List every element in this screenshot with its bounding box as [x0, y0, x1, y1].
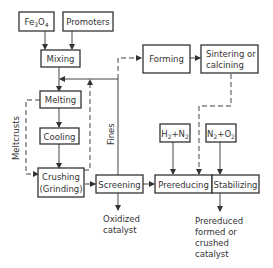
node-sintering: Sintering or calcining: [201, 45, 258, 73]
node-fe3o4: Fe3O4: [19, 12, 54, 31]
node-prereducing: Prereducing: [155, 175, 212, 193]
node-h2n2: H2+N2: [160, 124, 190, 142]
svg-text:Oxidized: Oxidized: [103, 214, 140, 224]
node-promoters: Promoters: [63, 12, 113, 31]
label-meltcrusts: Meltcrusts: [11, 115, 21, 160]
node-screening: Screening: [96, 175, 143, 193]
svg-text:H2+N2: H2+N2: [161, 129, 189, 140]
output-prereduced: Prereduced formed or crushed catalyst: [195, 216, 243, 259]
process-flow-diagram: Fe3O4 Promoters Mixing Melting Cooling C…: [0, 0, 273, 268]
svg-text:calcining: calcining: [206, 60, 244, 70]
node-cooling: Cooling: [40, 128, 79, 144]
svg-text:N2+O2: N2+O2: [207, 129, 235, 140]
svg-text:Forming: Forming: [149, 54, 184, 64]
svg-text:Crushing: Crushing: [42, 172, 80, 182]
output-oxidized: Oxidized catalyst: [103, 214, 140, 235]
svg-text:Cooling: Cooling: [44, 132, 76, 142]
svg-text:Promoters: Promoters: [66, 17, 110, 27]
svg-text:formed or: formed or: [195, 227, 237, 237]
svg-text:Melting: Melting: [45, 95, 76, 105]
node-stabilizing: Stabilizing: [212, 175, 259, 193]
svg-text:Screening: Screening: [98, 180, 140, 190]
node-mixing: Mixing: [41, 50, 80, 67]
node-crushing: Crushing (Grinding): [38, 168, 84, 197]
node-n2o2: N2+O2: [206, 124, 236, 142]
label-fines: Fines: [106, 123, 116, 145]
svg-text:Sintering or: Sintering or: [206, 49, 256, 59]
svg-text:catalyst: catalyst: [195, 249, 229, 259]
svg-text:Prereducing: Prereducing: [158, 180, 209, 190]
svg-text:(Grinding): (Grinding): [39, 184, 82, 194]
svg-text:catalyst: catalyst: [103, 225, 137, 235]
svg-text:Prereduced: Prereduced: [195, 216, 243, 226]
svg-text:Stabilizing: Stabilizing: [213, 180, 257, 190]
node-melting: Melting: [40, 91, 81, 108]
node-forming: Forming: [143, 45, 190, 73]
svg-text:crushed: crushed: [195, 238, 229, 248]
svg-text:Mixing: Mixing: [47, 54, 75, 64]
